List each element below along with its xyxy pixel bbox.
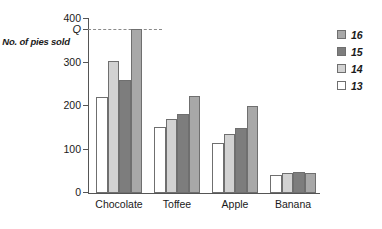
y-tick-mark [83,105,88,106]
legend-label-13: 13 [351,80,363,92]
bar-toffee-15 [177,114,189,192]
y-tick-label: 100 [63,143,81,155]
bar-chocolate-13 [96,97,108,193]
plot-area: 0100200300400 Q ChocolateToffeeAppleBana… [88,18,320,194]
legend-label-16: 16 [351,29,363,41]
y-tick-label: 0 [75,186,81,198]
bar-group-chocolate: Chocolate [96,19,142,193]
bar-group-apple: Apple [212,19,258,193]
legend-item-15: 15 [337,44,381,59]
bar-apple-15 [235,128,247,192]
y-axis-line [88,18,89,194]
bar-banana-14 [282,173,294,193]
x-axis-label-apple: Apple [222,198,249,210]
y-tick-label: 300 [63,56,81,68]
x-axis-label-chocolate: Chocolate [95,198,142,210]
bar-banana-15 [293,172,305,193]
bar-group-banana: Banana [270,19,316,193]
bar-group-toffee: Toffee [154,19,200,193]
bar-apple-13 [212,143,224,193]
bar-toffee-13 [154,127,166,192]
legend-swatch-16 [337,30,346,39]
x-axis-label-banana: Banana [275,198,311,210]
legend-label-14: 14 [351,63,363,75]
q-annotation-label: Q [72,23,81,35]
bar-banana-16 [305,173,317,193]
y-tick-mark [83,192,88,193]
y-tick-mark [83,62,88,63]
bar-toffee-14 [166,119,178,193]
y-tick-mark [83,18,88,19]
legend-item-13: 13 [337,78,381,93]
x-axis-label-toffee: Toffee [163,198,191,210]
bar-apple-14 [224,134,236,193]
legend: 16151413 [337,27,381,95]
bar-chocolate-15 [119,80,131,193]
bar-chocolate-16 [131,29,143,192]
y-tick-label: 200 [63,99,81,111]
legend-item-14: 14 [337,61,381,76]
bar-apple-16 [247,106,259,193]
legend-swatch-13 [337,81,346,90]
bar-banana-13 [270,175,282,192]
legend-swatch-15 [337,47,346,56]
legend-label-15: 15 [351,46,363,58]
y-tick-mark [83,149,88,150]
bar-toffee-16 [189,96,201,193]
legend-item-16: 16 [337,27,381,42]
bar-chocolate-14 [108,61,120,192]
legend-swatch-14 [337,64,346,73]
y-axis-title: No. of pies sold [2,36,70,48]
bar-chart: No. of pies sold 0100200300400 Q Chocola… [0,0,382,229]
x-axis-line [88,193,320,194]
